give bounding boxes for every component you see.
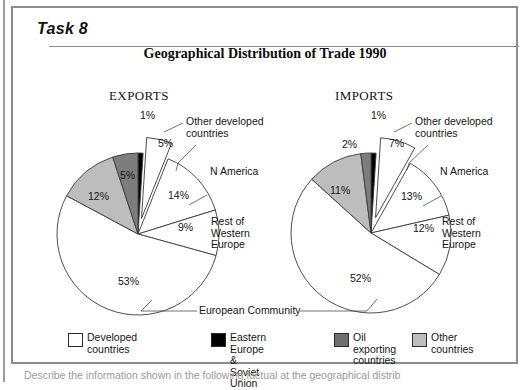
callout-imports-other-developed-countries: Other developed countries — [415, 116, 493, 139]
value-label-imports-european-community: 52% — [350, 272, 371, 284]
legend-swatch-eastern-europe-soviet-union — [211, 333, 226, 347]
value-label-imports-eastern-europe: 1% — [371, 109, 386, 121]
value-label-exports-european-community: 53% — [118, 275, 139, 287]
legend-swatch-other-countries — [412, 333, 427, 347]
callout-exports-rest-of-western-europe: Rest of Western Europe — [211, 216, 250, 251]
value-label-imports-other-countries: 11% — [330, 184, 350, 196]
value-label-exports-n-america: 14% — [168, 189, 189, 201]
legend-label-developed-countries: Developed countries — [87, 332, 137, 355]
callout-exports-other-developed-countries: Other developed countries — [186, 116, 264, 139]
pie-slice — [138, 153, 143, 234]
value-label-exports-other-countries: 12% — [88, 190, 109, 202]
value-label-exports-eastern-europe: 1% — [140, 109, 155, 121]
footer-cut-text: Describe the information shown in the fo… — [24, 371, 516, 382]
value-label-imports-oil-exporting: 2% — [342, 138, 357, 150]
callout-imports-n-america: N America — [440, 166, 488, 178]
value-label-imports-rest-of-western-europe: 12% — [413, 222, 434, 234]
callout-exports-n-america: N America — [210, 166, 258, 178]
pie-exports — [57, 138, 219, 315]
footer-cut-text-line: Describe the information shown in the fo… — [24, 371, 516, 381]
callout-imports-rest-of-western-europe: Rest of Western Europe — [442, 216, 481, 251]
pie-slice — [371, 153, 376, 233]
legend-swatch-oil-exporting-countries — [334, 333, 349, 347]
value-label-exports-oil-exporting: 5% — [120, 169, 135, 181]
value-label-imports-other-developed: 7% — [389, 137, 404, 149]
value-label-exports-other-developed: 5% — [158, 137, 173, 149]
value-label-exports-rest-of-western-europe: 9% — [178, 221, 193, 233]
legend-swatch-developed-countries — [68, 333, 83, 347]
value-label-imports-n-america: 13% — [401, 190, 422, 202]
legend-label-other-countries: Other countries — [431, 332, 474, 355]
callout-european-community: European Community — [199, 305, 301, 317]
legend-label-oil-exporting-countries: Oil exporting countries — [353, 332, 396, 367]
legend: Developed countries Eastern Europe & Sov… — [0, 332, 530, 362]
